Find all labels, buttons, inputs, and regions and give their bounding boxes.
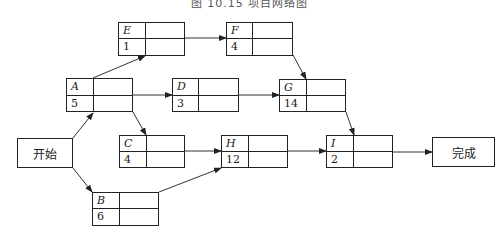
activity-node-f: F 4 <box>226 22 293 56</box>
edge-g-i <box>346 112 354 135</box>
edge-a-c <box>133 112 146 135</box>
edge-b-h <box>159 168 221 192</box>
activity-duration: 5 <box>67 96 78 111</box>
activity-node-d: D 3 <box>172 78 239 112</box>
activity-duration: 1 <box>119 39 130 54</box>
finish-node: 完成 <box>432 137 495 167</box>
activity-node-e: E 1 <box>118 22 185 56</box>
activity-name: G <box>280 80 293 95</box>
activity-node-c: C 4 <box>119 135 185 168</box>
start-label: 开始 <box>33 145 57 162</box>
activity-duration: 4 <box>120 152 131 167</box>
start-node: 开始 <box>17 138 73 168</box>
activity-name: H <box>222 136 236 151</box>
activity-name: F <box>227 23 239 38</box>
activity-duration: 6 <box>93 209 104 224</box>
edge-a-e <box>93 56 145 78</box>
activity-node-b: B 6 <box>92 192 159 226</box>
activity-duration: 3 <box>173 96 184 111</box>
activity-name: I <box>327 136 335 151</box>
activity-duration: 2 <box>327 152 338 167</box>
activity-duration: 12 <box>222 152 240 167</box>
edge-f-g <box>293 55 306 79</box>
activity-name: B <box>93 193 105 208</box>
edge-start-a <box>73 113 93 138</box>
activity-node-h: H 12 <box>221 135 288 168</box>
activity-name: C <box>120 136 132 151</box>
activity-name: A <box>67 79 79 94</box>
activity-node-a: A 5 <box>66 78 133 112</box>
activity-name: E <box>119 23 131 38</box>
activity-duration: 4 <box>227 39 238 54</box>
activity-node-g: G 14 <box>279 79 346 112</box>
finish-label: 完成 <box>452 144 476 161</box>
activity-duration: 14 <box>280 96 298 111</box>
edge-start-b <box>73 168 92 192</box>
activity-name: D <box>173 79 186 94</box>
activity-node-i: I 2 <box>326 135 393 168</box>
